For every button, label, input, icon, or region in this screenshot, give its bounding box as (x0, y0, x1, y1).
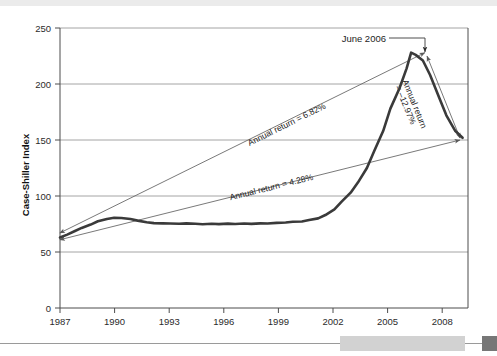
case-shiller-series-line (60, 53, 463, 238)
footer-gray-bar (340, 336, 465, 351)
y-tick-label-50: 50 (40, 247, 51, 258)
x-tick-label-1999: 1999 (268, 316, 289, 327)
x-tick-label-1987: 1987 (49, 316, 70, 327)
y-tick-marks (55, 28, 60, 308)
y-tick-label-200: 200 (35, 79, 51, 90)
chart-figure: 0 50 100 150 200 250 1987 1990 1993 1996… (0, 0, 497, 356)
y-tick-label-0: 0 (46, 303, 51, 314)
upper-return-label: Annual return = 6.82% (246, 101, 328, 148)
y-tick-label-250: 250 (35, 23, 51, 34)
x-tick-label-2002: 2002 (322, 316, 343, 327)
upper-trend-arrow (60, 53, 425, 233)
x-tick-marks (60, 308, 442, 313)
chart-canvas: 0 50 100 150 200 250 1987 1990 1993 1996… (0, 0, 497, 356)
decline-trend-arrow (427, 56, 460, 138)
footer-dark-square (482, 336, 497, 351)
peak-callout-leader (389, 38, 425, 52)
y-axis-title: Case-Shiller Index (20, 133, 31, 216)
x-tick-label-1993: 1993 (159, 316, 180, 327)
x-tick-label-1990: 1990 (104, 316, 125, 327)
x-tick-label-2005: 2005 (377, 316, 398, 327)
x-tick-label-1996: 1996 (213, 316, 234, 327)
lower-return-label: Annual return = 4.28% (228, 172, 314, 203)
peak-callout-label: June 2006 (342, 33, 386, 44)
y-tick-label-150: 150 (35, 135, 51, 146)
y-tick-label-100: 100 (35, 191, 51, 202)
x-tick-label-2008: 2008 (432, 316, 453, 327)
